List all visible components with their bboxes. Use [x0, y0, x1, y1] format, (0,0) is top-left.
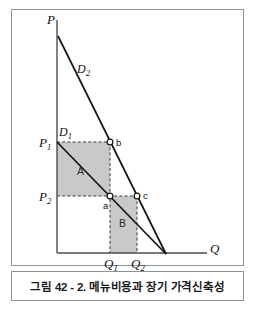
tick-label-p2-sub: 2	[47, 196, 52, 206]
point-label-c: c	[143, 190, 148, 201]
curve-label-d1-base: D	[58, 125, 68, 139]
economics-diagram: P Q D2 D1 P1 P2 Q1 Q2 b a c A B	[0, 0, 254, 311]
tick-label-p1-base: P	[38, 135, 47, 150]
point-label-a: a	[103, 200, 109, 211]
point-b-marker	[107, 139, 113, 145]
curve-label-d2-base: D	[76, 62, 86, 76]
point-a-marker	[107, 193, 113, 199]
tick-label-p1-sub: 1	[47, 142, 51, 152]
p-axis-label: P	[46, 12, 55, 27]
figure-root: P Q D2 D1 P1 P2 Q1 Q2 b a c A B 그림 42	[0, 0, 254, 311]
region-label-a: A	[77, 165, 84, 177]
curve-label-d1-sub: 1	[68, 131, 72, 141]
point-label-b: b	[116, 137, 121, 148]
tick-label-p2: P2	[38, 189, 52, 206]
point-c-marker	[134, 193, 140, 199]
caption-frame: 그림 42 - 2. 메뉴비용과 장기 가격신축성	[11, 271, 244, 301]
curve-label-d2-sub: 2	[86, 68, 91, 78]
figure-caption: 그림 42 - 2. 메뉴비용과 장기 가격신축성	[30, 278, 224, 294]
tick-label-p2-base: P	[38, 189, 47, 204]
curve-label-d2: D2	[76, 62, 91, 78]
tick-label-p1: P1	[38, 135, 51, 152]
region-label-b: B	[119, 217, 126, 229]
curve-label-d1: D1	[58, 125, 72, 141]
q-axis-label: Q	[210, 241, 220, 256]
